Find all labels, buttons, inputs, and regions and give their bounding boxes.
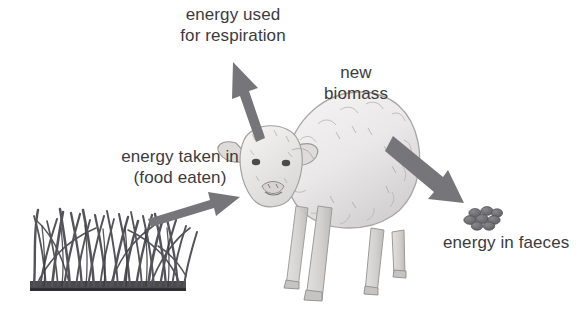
label-respiration-line1: energy used	[163, 4, 303, 25]
label-respiration-line2: for respiration	[163, 25, 303, 46]
energy-flow-diagram: energy used for respiration energy taken…	[0, 0, 584, 318]
arrow-energy-respiration	[232, 62, 265, 142]
label-taken-in-line2: (food eaten)	[104, 167, 256, 188]
label-energy-in-faeces: energy in faeces	[443, 232, 583, 253]
label-energy-taken-in: energy taken in (food eaten)	[104, 146, 256, 188]
label-biomass-line1: new	[315, 62, 397, 83]
label-faeces-text: energy in faeces	[443, 232, 583, 253]
faeces-pellets	[464, 207, 503, 231]
label-new-biomass: new biomass	[315, 62, 397, 104]
grass	[30, 209, 197, 291]
diagram-artwork	[0, 0, 584, 318]
label-taken-in-line1: energy taken in	[104, 146, 256, 167]
sheep	[218, 92, 420, 301]
label-energy-used-for-respiration: energy used for respiration	[163, 4, 303, 46]
label-biomass-line2: biomass	[315, 83, 397, 104]
arrow-energy-taken-in	[148, 192, 240, 227]
